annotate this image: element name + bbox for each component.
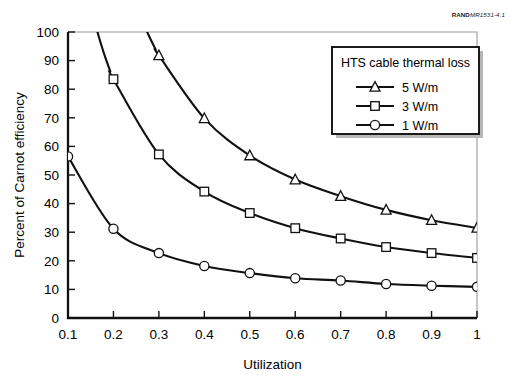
line-chart: HTS cable thermal loss5 W/m3 W/m1 W/m 01… [0, 0, 513, 384]
x-tick-label: 1 [473, 327, 481, 342]
y-tick-label: 70 [44, 111, 59, 126]
x-tick-label: 0.6 [286, 327, 305, 342]
x-tick-label: 0.9 [422, 327, 441, 342]
y-tick-label: 50 [44, 168, 59, 183]
data-point-marker [200, 187, 209, 196]
legend-entry-label: 5 W/m [402, 81, 438, 95]
data-point-marker [473, 254, 482, 263]
x-tick-label: 0.2 [104, 327, 123, 342]
y-tick-label: 100 [36, 25, 59, 40]
figure-root: RANDMR1531-4.1 HTS cable thermal loss5 W… [0, 0, 513, 384]
legend-entry-label: 3 W/m [402, 100, 438, 114]
y-tick-label: 0 [51, 311, 59, 326]
x-axis-title: Utilization [243, 357, 302, 372]
x-tick-label: 0.4 [195, 327, 214, 342]
data-point-marker [245, 268, 254, 277]
legend-sample-marker [371, 102, 380, 111]
x-tick-label: 0.7 [331, 327, 350, 342]
series-layer [63, 0, 482, 291]
data-point-marker [336, 276, 345, 285]
y-tick-label: 10 [44, 282, 59, 297]
data-point-marker [291, 274, 300, 283]
y-tick-label: 40 [44, 196, 59, 211]
data-point-marker [245, 150, 255, 160]
data-point-marker [472, 282, 481, 291]
data-point-marker [109, 75, 118, 84]
data-point-marker [155, 150, 164, 159]
legend-layer: HTS cable thermal loss5 W/m3 W/m1 W/m [332, 47, 483, 138]
legend-entry-label: 1 W/m [402, 119, 438, 133]
y-tick-label: 60 [44, 139, 59, 154]
legend-sample-marker [370, 120, 379, 129]
data-point-marker [154, 248, 163, 257]
data-point-marker [109, 224, 118, 233]
x-tick-label: 0.8 [377, 327, 396, 342]
y-tick-label: 80 [44, 82, 59, 97]
x-tick-label: 0.1 [59, 327, 78, 342]
data-point-marker [427, 281, 436, 290]
data-point-marker [291, 224, 300, 233]
y-tick-label: 90 [44, 53, 59, 68]
data-point-marker [382, 279, 391, 288]
data-point-marker [336, 234, 345, 243]
data-point-marker [427, 249, 436, 258]
y-axis-title: Percent of Carnot efficiency [12, 92, 27, 258]
y-tick-label: 30 [44, 225, 59, 240]
data-point-marker [200, 261, 209, 270]
y-tick-label: 20 [44, 254, 59, 269]
data-point-marker [382, 243, 391, 252]
x-tick-label: 0.5 [240, 327, 259, 342]
data-point-marker [245, 209, 254, 218]
x-tick-label: 0.3 [149, 327, 168, 342]
data-point-marker [63, 152, 72, 161]
legend-title: HTS cable thermal loss [341, 56, 470, 70]
